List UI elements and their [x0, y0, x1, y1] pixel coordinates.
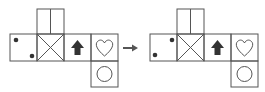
- up-arrow-icon: [211, 40, 224, 55]
- dot-icon: [170, 38, 175, 43]
- circle-icon: [97, 67, 112, 82]
- heart-cell: [91, 34, 118, 61]
- arrow-head-icon: [132, 45, 138, 52]
- dot-icon: [14, 38, 19, 43]
- right-net: [150, 9, 258, 87]
- circle-icon: [237, 67, 252, 82]
- heart-cell: [231, 34, 258, 61]
- circle-cell: [231, 61, 258, 87]
- heart-icon: [96, 40, 112, 56]
- dot-icon: [30, 54, 35, 59]
- transform-arrow: [123, 45, 138, 52]
- up-arrow-icon: [71, 40, 84, 55]
- circle-cell: [91, 61, 118, 87]
- diagram-canvas: [0, 0, 265, 92]
- dot-icon: [153, 53, 158, 58]
- heart-icon: [236, 40, 252, 56]
- left-net: [10, 9, 118, 87]
